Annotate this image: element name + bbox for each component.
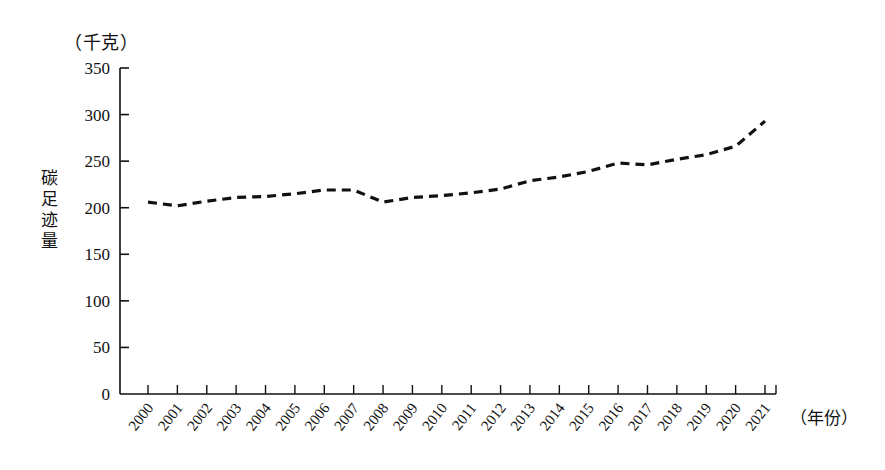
x-tick-label: 2009 (390, 400, 421, 433)
x-tick-label: 2017 (625, 400, 656, 434)
x-axis: 2000200120022003200420052006200720082009… (120, 385, 776, 433)
x-tick-label: 2012 (478, 400, 509, 433)
x-tick-label: 2011 (449, 400, 480, 433)
x-tick-label: 2003 (213, 400, 244, 433)
x-tick-label: 2001 (155, 400, 186, 433)
x-tick-label: 2006 (302, 400, 333, 434)
y-tick-label: 0 (102, 385, 111, 404)
data-series-carbon-footprint (148, 121, 765, 206)
x-tick-label: 2005 (272, 400, 303, 433)
x-tick-label: 2000 (125, 400, 156, 433)
x-tick-label: 2015 (566, 400, 597, 433)
carbon-footprint-line-chart: （千克） 碳 足 迹 量 （年份） 050100150200250300350 … (0, 0, 885, 470)
x-tick-label: 2013 (507, 400, 538, 433)
y-tick-label: 150 (85, 245, 111, 264)
x-tick-label: 2016 (595, 400, 626, 434)
plot-area: 050100150200250300350 200020012002200320… (0, 0, 885, 470)
x-tick-label: 2021 (742, 400, 773, 433)
x-tick-label: 2002 (184, 400, 215, 433)
y-tick-label: 100 (85, 292, 111, 311)
y-tick-label: 250 (85, 152, 111, 171)
x-tick-label: 2018 (654, 400, 685, 433)
x-tick-label: 2019 (684, 400, 715, 433)
y-tick-label: 300 (85, 106, 111, 125)
y-axis: 050100150200250300350 (85, 59, 130, 404)
x-tick-label: 2020 (713, 400, 744, 433)
series-line (148, 121, 765, 206)
x-tick-label: 2004 (243, 400, 274, 434)
y-tick-label: 200 (85, 199, 111, 218)
y-tick-label: 350 (85, 59, 111, 78)
x-tick-label: 2007 (331, 400, 362, 434)
x-tick-label: 2010 (419, 400, 450, 433)
x-tick-label: 2014 (537, 400, 568, 434)
x-tick-label: 2008 (360, 400, 391, 433)
y-tick-label: 50 (93, 338, 110, 357)
